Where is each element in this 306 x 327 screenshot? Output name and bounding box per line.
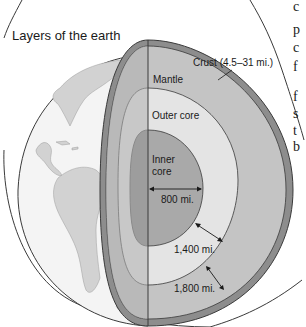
svg-text:c: c: [293, 40, 299, 55]
earth-layers-diagram: Layers of the earth Crust (4.5–31 mi.) M…: [0, 0, 306, 327]
label-inner-core-2: core: [152, 166, 172, 177]
label-mantle-thickness: 1,800 mi.: [174, 283, 215, 294]
side-text-fragments: c p c f f s t b: [293, 0, 300, 154]
label-crust: Crust (4.5–31 mi.): [193, 57, 273, 68]
svg-text:c: c: [293, 0, 299, 14]
label-outer-core-thickness: 1,400 mi.: [174, 244, 215, 255]
label-inner-radius: 800 mi.: [161, 194, 194, 205]
svg-text:s: s: [293, 106, 298, 121]
svg-text:p: p: [293, 22, 300, 37]
label-inner-core-1: Inner: [152, 154, 175, 165]
svg-text:f: f: [293, 59, 298, 74]
svg-text:b: b: [293, 139, 300, 154]
label-mantle: Mantle: [153, 74, 183, 85]
diagram-title: Layers of the earth: [12, 28, 120, 43]
svg-text:t: t: [293, 123, 297, 138]
svg-text:f: f: [293, 89, 298, 104]
label-outer-core: Outer core: [152, 110, 200, 121]
